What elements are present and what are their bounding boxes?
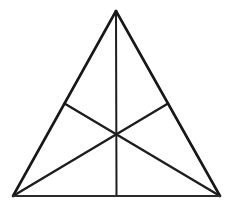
geometry-figure [0, 0, 233, 206]
median-apex-to-base-line [116, 11, 117, 196]
triangle-medians-svg [0, 0, 233, 206]
